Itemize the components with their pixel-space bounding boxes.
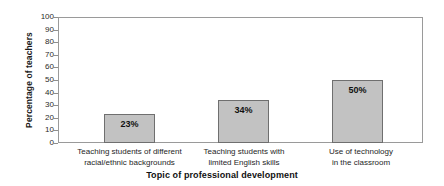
x-category-label-3: Use of technology in the classroom (303, 147, 419, 168)
y-tick-label-100: 100 (28, 12, 54, 22)
y-tick-label-50: 50 (28, 75, 54, 85)
y-tick-label-20: 20 (28, 113, 54, 123)
bar-value-label-1: 23% (104, 119, 155, 129)
y-tick-mark-0 (53, 143, 58, 144)
y-tick-label-90: 90 (28, 25, 54, 35)
x-category-label-1: Teaching students of different racial/et… (58, 147, 201, 168)
y-tick-label-0: 0 (28, 138, 54, 148)
y-tick-label-80: 80 (28, 37, 54, 47)
x-category-label-2: Teaching students with limited English s… (184, 147, 304, 168)
bar-value-label-3: 50% (332, 85, 383, 95)
chart-canvas: Percentage of teachers 100 90 80 70 60 5… (0, 0, 444, 186)
x-axis-title: Topic of professional development (0, 170, 444, 180)
bar-value-label-2: 34% (218, 105, 269, 115)
y-tick-label-70: 70 (28, 50, 54, 60)
y-tick-label-10: 10 (28, 125, 54, 135)
y-tick-label-40: 40 (28, 88, 54, 98)
y-tick-label-30: 30 (28, 100, 54, 110)
y-tick-label-60: 60 (28, 62, 54, 72)
